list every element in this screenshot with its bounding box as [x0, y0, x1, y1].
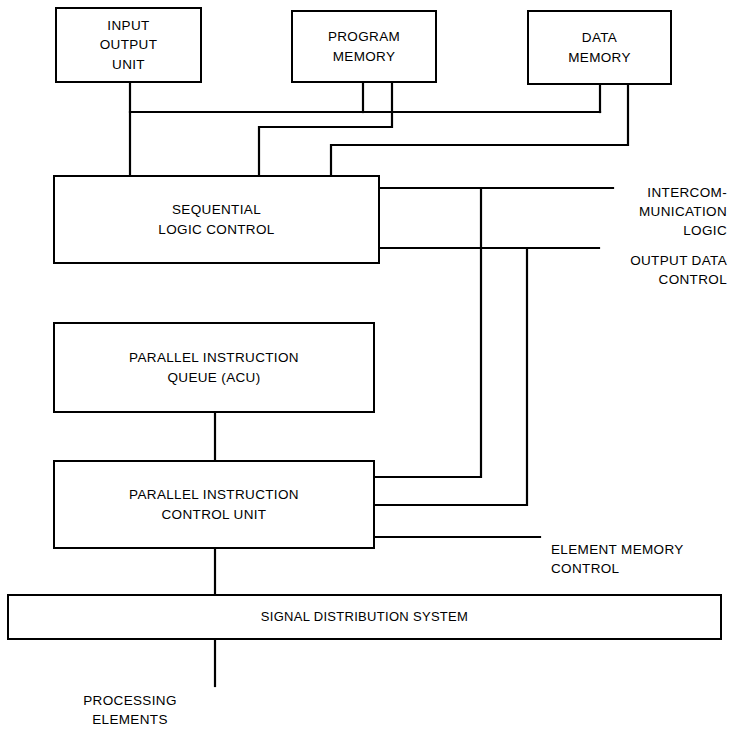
block-diagram: INPUT OUTPUT UNIT PROGRAM MEMORY DATA ME… — [0, 0, 737, 730]
label-element-memory-control: ELEMENT MEMORY CONTROL — [551, 521, 731, 578]
label-intercommunication-logic-text: INTERCOM- MUNICATION LOGIC — [639, 185, 727, 238]
node-parallel-instruction-queue-label: PARALLEL INSTRUCTION QUEUE (ACU) — [129, 348, 299, 386]
node-input-output-unit[interactable]: INPUT OUTPUT UNIT — [55, 7, 202, 83]
node-input-output-unit-label: INPUT OUTPUT UNIT — [100, 16, 158, 73]
node-parallel-instruction-control-unit-label: PARALLEL INSTRUCTION CONTROL UNIT — [129, 485, 299, 523]
node-data-memory-label: DATA MEMORY — [568, 28, 631, 66]
label-processing-elements-text: PROCESSING ELEMENTS — [83, 693, 177, 727]
label-element-memory-control-text: ELEMENT MEMORY CONTROL — [551, 542, 684, 576]
node-parallel-instruction-control-unit[interactable]: PARALLEL INSTRUCTION CONTROL UNIT — [53, 460, 375, 549]
node-parallel-instruction-queue[interactable]: PARALLEL INSTRUCTION QUEUE (ACU) — [53, 322, 375, 413]
wire-trunk-intercom-down — [375, 188, 481, 477]
node-program-memory[interactable]: PROGRAM MEMORY — [291, 10, 437, 83]
wire-datamem-right-route — [331, 85, 628, 175]
node-sequential-logic-control[interactable]: SEQUENTIAL LOGIC CONTROL — [53, 175, 380, 264]
label-output-data-control: OUTPUT DATA CONTROL — [500, 232, 727, 289]
label-processing-elements: PROCESSING ELEMENTS — [60, 672, 200, 729]
wire-progmem-right-route — [259, 83, 392, 175]
node-data-memory[interactable]: DATA MEMORY — [527, 10, 672, 85]
node-sequential-logic-control-label: SEQUENTIAL LOGIC CONTROL — [158, 200, 274, 238]
node-program-memory-label: PROGRAM MEMORY — [328, 27, 400, 65]
label-intercommunication-logic: INTERCOM- MUNICATION LOGIC — [500, 164, 727, 241]
node-signal-distribution-system[interactable]: SIGNAL DISTRIBUTION SYSTEM — [7, 594, 722, 640]
node-signal-distribution-system-label: SIGNAL DISTRIBUTION SYSTEM — [261, 608, 468, 626]
label-output-data-control-text: OUTPUT DATA CONTROL — [630, 253, 727, 287]
